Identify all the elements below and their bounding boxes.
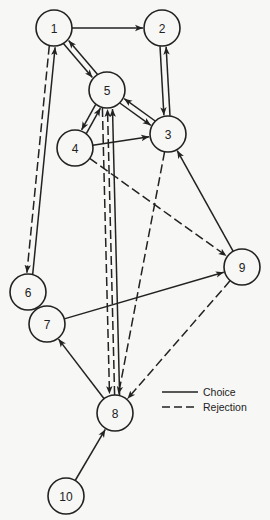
node-8: 8 [97, 395, 133, 431]
edge-choice-8-to-7 [59, 339, 105, 399]
edge-rejection-1-to-6 [27, 46, 49, 273]
node-9: 9 [224, 249, 260, 285]
node-5: 5 [89, 72, 125, 108]
node-label: 9 [239, 261, 246, 275]
edge-choice-2-to-3 [160, 46, 164, 115]
node-4: 4 [57, 130, 93, 166]
node-label: 7 [44, 318, 51, 332]
node-label: 3 [165, 128, 172, 142]
preference-graph: 12534679810 Choice Rejection [0, 0, 270, 520]
node-3: 3 [150, 116, 186, 152]
edge-choice-7-to-9 [64, 272, 224, 319]
edge-choice-4-to-3 [93, 137, 149, 146]
edge-choice-6-to-1 [33, 47, 55, 274]
legend-choice-label: Choice [203, 386, 236, 398]
edge-rejection-5-to-8 [102, 108, 109, 394]
node-10: 10 [48, 478, 84, 514]
node-2: 2 [144, 10, 180, 46]
node-7: 7 [29, 306, 65, 342]
legend-rejection-label: Rejection [203, 401, 247, 413]
edge-choice-4-to-5 [86, 108, 100, 134]
node-label: 5 [104, 84, 111, 98]
node-label: 2 [159, 22, 166, 36]
legend: Choice Rejection [162, 386, 247, 413]
edge-rejection-3-to-8 [119, 152, 165, 395]
node-label: 8 [112, 407, 119, 421]
nodes-layer: 12534679810 [10, 10, 260, 514]
edge-choice-10-to-8 [75, 429, 105, 480]
node-6: 6 [10, 274, 46, 310]
edge-choice-9-to-3 [177, 151, 233, 252]
node-label: 6 [25, 286, 32, 300]
edge-choice-5-to-4 [82, 104, 96, 130]
node-label: 1 [51, 22, 58, 36]
node-label: 10 [59, 490, 73, 504]
edge-choice-1-to-5 [63, 44, 92, 78]
edge-choice-3-to-2 [166, 47, 170, 116]
node-1: 1 [36, 10, 72, 46]
edge-choice-5-to-1 [69, 41, 98, 75]
edge-rejection-9-to-8 [128, 281, 231, 399]
node-label: 4 [72, 142, 79, 156]
